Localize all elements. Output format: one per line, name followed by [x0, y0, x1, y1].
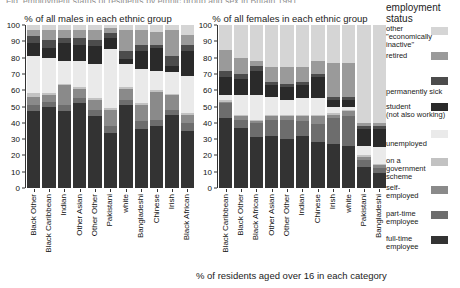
- y-tick-label: 30: [11, 135, 20, 144]
- legend-item-label: part-time employee: [386, 210, 460, 226]
- legend-item[interactable]: retired: [386, 52, 460, 60]
- bar-stack[interactable]: [311, 25, 324, 188]
- bar-segment: [135, 51, 148, 69]
- bar-segment: [219, 50, 232, 71]
- bar-segment: [311, 142, 324, 188]
- bar-segment: [280, 120, 293, 140]
- legend-color-swatch: [431, 77, 448, 85]
- bar-segment: [250, 95, 263, 119]
- legend-item[interactable]: self- employed: [386, 184, 460, 200]
- bar-stack[interactable]: [219, 25, 232, 188]
- x-tick-label: Black African: [183, 194, 191, 240]
- bar-stack[interactable]: [42, 25, 55, 188]
- bar-segment: [150, 71, 163, 91]
- bar-stack[interactable]: [73, 25, 86, 188]
- bar-segment: [327, 118, 340, 144]
- x-axis-caption: % of residents aged over 16 in each cate…: [196, 270, 387, 281]
- legend-item[interactable]: on a government scheme: [386, 157, 460, 181]
- bar-segment: [311, 116, 324, 124]
- bar-segment: [296, 121, 309, 136]
- x-label-cell: Black African: [250, 194, 263, 278]
- bar-segment: [265, 136, 278, 188]
- bar-segment: [27, 56, 40, 93]
- x-tick-mark: [42, 189, 55, 193]
- x-tick-mark: [150, 189, 163, 193]
- bar-stack[interactable]: [373, 25, 386, 188]
- bar-segment: [296, 67, 309, 82]
- bar-segment: [42, 107, 55, 189]
- x-tick-mark: [58, 189, 71, 193]
- y-tick-label: 20: [203, 151, 212, 160]
- bar-segment: [280, 87, 293, 100]
- bar-segment: [165, 95, 178, 110]
- y-tick-label: 10: [203, 167, 212, 176]
- x-tick-label: Indian: [298, 194, 306, 216]
- x-tick-label: Irish: [168, 194, 176, 209]
- bar-segment: [135, 69, 148, 103]
- bars-females: [219, 25, 386, 188]
- legend-item-label: full-time employee: [386, 235, 460, 251]
- legend-item-label: on a government scheme: [386, 157, 460, 181]
- y-tick-label: 40: [11, 118, 20, 127]
- x-tick-label: Other Asian: [268, 194, 276, 236]
- bar-segment: [280, 100, 293, 115]
- legend-item[interactable]: unemployed: [386, 140, 460, 148]
- bar-segment: [219, 118, 232, 188]
- x-label-cell: white: [119, 194, 132, 278]
- bar-stack[interactable]: [135, 25, 148, 188]
- bar-segment: [42, 58, 55, 94]
- x-label-cell: Other Asian: [265, 194, 278, 278]
- legend-item[interactable]: student (not also working): [386, 103, 460, 119]
- bar-stack[interactable]: [357, 25, 370, 188]
- bar-stack[interactable]: [150, 25, 163, 188]
- bar-segment: [280, 139, 293, 188]
- x-tick-mark: [296, 189, 309, 193]
- legend-item[interactable]: permanently sick: [386, 88, 460, 96]
- bar-segment: [119, 30, 132, 51]
- x-ticks-females: [219, 189, 386, 193]
- legend-color-swatch: [431, 186, 448, 194]
- y-axis-line-males: [25, 25, 26, 188]
- legend-item[interactable]: full-time employee: [386, 235, 460, 251]
- bar-segment: [373, 173, 386, 188]
- bar-segment: [311, 124, 324, 142]
- bar-segment: [311, 98, 324, 114]
- bar-segment: [311, 25, 324, 61]
- bar-segment: [42, 40, 55, 48]
- bar-stack[interactable]: [119, 25, 132, 188]
- y-tick-label: 90: [203, 37, 212, 46]
- bar-segment: [311, 61, 324, 74]
- bar-segment: [73, 89, 86, 99]
- bar-stack[interactable]: [165, 25, 178, 188]
- bar-segment: [165, 72, 178, 93]
- x-tick-label: Chinese: [314, 194, 322, 223]
- legend-item[interactable]: part-time employee: [386, 210, 460, 226]
- bar-stack[interactable]: [296, 25, 309, 188]
- legend-title-line2: status: [386, 13, 413, 24]
- bar-stack[interactable]: [234, 25, 247, 188]
- bar-segment: [327, 63, 340, 97]
- x-label-cell: Pakistani: [104, 194, 117, 278]
- legend-item[interactable]: other "economically inactive": [386, 25, 460, 49]
- bar-stack[interactable]: [250, 25, 263, 188]
- bar-stack[interactable]: [327, 25, 340, 188]
- bar-segment: [104, 38, 117, 49]
- bar-stack[interactable]: [342, 25, 355, 188]
- figure-root: Fig. employment status of residents by e…: [0, 0, 460, 288]
- bar-stack[interactable]: [27, 25, 40, 188]
- y-tick-label: 80: [203, 53, 212, 62]
- bar-stack[interactable]: [58, 25, 71, 188]
- x-labels-females: Black CaribbeanBlack OtherBlack AfricanO…: [219, 194, 386, 278]
- bar-segment: [42, 48, 55, 58]
- bar-stack[interactable]: [104, 25, 117, 188]
- bar-segment: [73, 45, 86, 61]
- bar-stack[interactable]: [280, 25, 293, 188]
- legend-item-label: unemployed: [386, 140, 460, 148]
- bar-segment: [342, 116, 355, 145]
- legend: employment status other "economically in…: [386, 0, 460, 288]
- bar-stack[interactable]: [88, 25, 101, 188]
- bar-segment: [373, 129, 386, 147]
- x-label-cell: Black Other: [234, 194, 247, 278]
- bar-stack[interactable]: [265, 25, 278, 188]
- x-tick-label: Other Other: [91, 194, 99, 236]
